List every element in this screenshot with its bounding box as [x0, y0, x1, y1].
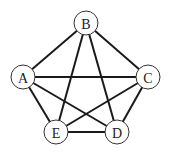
node-c: C [136, 65, 160, 89]
graph-diagram: ABCDE [0, 0, 172, 157]
edges-group [23, 23, 148, 132]
node-a: A [11, 65, 35, 89]
node-e: E [44, 120, 68, 144]
node-label: B [81, 17, 90, 32]
node-label: D [112, 126, 122, 141]
node-label: E [52, 126, 61, 141]
node-b: B [74, 11, 98, 35]
node-label: A [18, 71, 29, 86]
node-label: C [143, 71, 152, 86]
node-d: D [105, 120, 129, 144]
